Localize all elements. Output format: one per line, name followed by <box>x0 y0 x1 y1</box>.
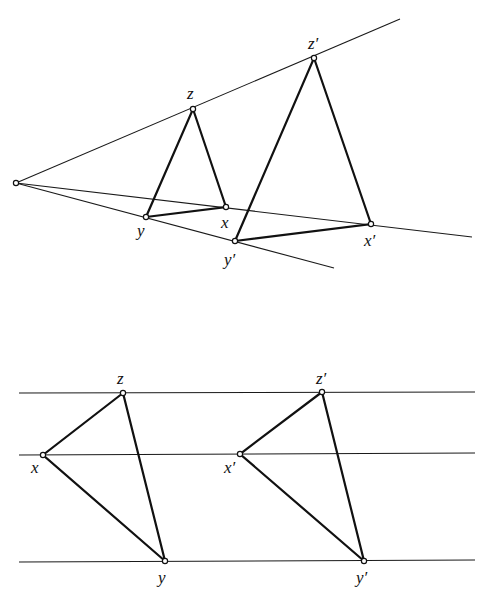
point-y-prime-bottom <box>361 558 366 563</box>
point-x <box>223 204 228 209</box>
center-point <box>13 180 18 185</box>
label-z: z <box>186 84 194 103</box>
label-x-bottom: x <box>30 458 39 477</box>
point-y-bottom <box>162 558 167 563</box>
point-x-prime <box>368 221 373 226</box>
parallel-line-top <box>19 392 475 393</box>
label-z-prime-bottom: z′ <box>315 369 327 388</box>
point-y <box>143 214 148 219</box>
geometry-figure: z x y z′ x′ y′ z x y z′ x′ y′ <box>0 0 485 614</box>
label-y: y <box>135 221 145 240</box>
label-y-prime-bottom: y′ <box>354 568 368 587</box>
parallel-line-middle <box>19 453 475 455</box>
label-y-prime: y′ <box>222 250 236 269</box>
point-x-bottom <box>40 452 45 457</box>
label-x-prime: x′ <box>363 231 376 250</box>
bottom-figure-translation: z x y z′ x′ y′ <box>19 369 475 587</box>
label-x: x <box>220 213 229 232</box>
triangle-xyz-small <box>146 109 226 217</box>
parallel-line-bottom <box>19 560 475 562</box>
point-x-prime-bottom <box>237 451 242 456</box>
point-z <box>190 106 195 111</box>
point-y-prime <box>232 238 237 243</box>
label-z-bottom: z <box>116 369 124 388</box>
triangle-xyz-large <box>235 58 371 241</box>
top-figure-homothety: z x y z′ x′ y′ <box>13 19 472 269</box>
triangle-left <box>43 393 165 561</box>
label-z-prime: z′ <box>307 34 319 53</box>
label-x-prime-bottom: x′ <box>223 458 236 477</box>
label-y-bottom: y <box>156 568 166 587</box>
ray-through-x <box>16 183 472 237</box>
point-z-prime <box>311 55 316 60</box>
ray-through-y <box>16 183 334 268</box>
point-z-bottom <box>120 390 125 395</box>
triangle-right <box>240 392 364 561</box>
point-z-prime-bottom <box>319 389 324 394</box>
ray-through-z <box>16 19 400 183</box>
